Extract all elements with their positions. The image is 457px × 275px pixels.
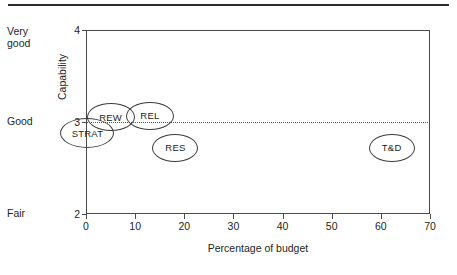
top-divider-rule	[8, 4, 449, 6]
y-tick-mark	[82, 30, 87, 31]
x-tick-mark	[283, 214, 284, 219]
y-tick-label: 4	[68, 24, 80, 36]
bubble-label: T&D	[382, 142, 402, 153]
y-category-label: Good	[7, 116, 33, 128]
x-tick-label: 60	[375, 220, 387, 232]
x-tick-mark	[233, 214, 234, 219]
data-bubble-rel: REL	[126, 102, 174, 130]
x-axis-title: Percentage of budget	[86, 242, 430, 254]
x-tick-mark	[332, 214, 333, 219]
y-tick-label: 2	[68, 208, 80, 220]
x-tick-mark	[86, 214, 87, 219]
x-tick-label: 20	[178, 220, 190, 232]
data-bubble-t-d: T&D	[369, 134, 415, 162]
figure-container: Very goodGoodFair 234 010203040506070 ST…	[0, 0, 457, 275]
x-tick-mark	[381, 214, 382, 219]
y-category-label: Very good	[7, 26, 30, 49]
bubble-label: RES	[165, 142, 185, 153]
y-category-label: Fair	[7, 208, 25, 220]
x-tick-mark	[135, 214, 136, 219]
x-tick-mark	[430, 214, 431, 219]
x-tick-label: 50	[326, 220, 338, 232]
bubble-label: REL	[140, 110, 159, 121]
x-tick-label: 30	[228, 220, 240, 232]
x-tick-label: 40	[277, 220, 289, 232]
x-tick-label: 10	[129, 220, 141, 232]
data-bubble-res: RES	[152, 134, 198, 162]
x-tick-mark	[184, 214, 185, 219]
bubble-label: REW	[99, 112, 122, 123]
x-tick-label: 0	[83, 220, 89, 232]
x-tick-label: 70	[424, 220, 436, 232]
y-axis-title: Capability	[56, 54, 68, 100]
